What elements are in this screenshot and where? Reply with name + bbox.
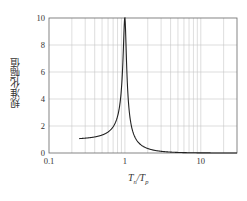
y-axis-label: 规准化幅值 xyxy=(8,58,22,108)
svg-text:2: 2 xyxy=(41,121,45,131)
chart: 0246810 0.1110 xyxy=(0,0,247,201)
x-tick-labels: 0.1110 xyxy=(44,156,205,166)
svg-text:4: 4 xyxy=(41,94,46,104)
grid-lines xyxy=(49,18,237,153)
y-tick-labels: 0246810 xyxy=(37,13,46,158)
x-label-sub2: p xyxy=(145,178,148,185)
x-axis-label: Tn/Tp xyxy=(128,172,148,185)
svg-text:10: 10 xyxy=(37,13,46,23)
amplitude-curve xyxy=(79,18,237,153)
svg-text:8: 8 xyxy=(41,40,45,50)
svg-text:0.1: 0.1 xyxy=(44,156,55,166)
plot-frame xyxy=(49,18,237,153)
svg-text:6: 6 xyxy=(41,67,45,77)
svg-text:10: 10 xyxy=(197,156,206,166)
svg-text:1: 1 xyxy=(123,156,127,166)
